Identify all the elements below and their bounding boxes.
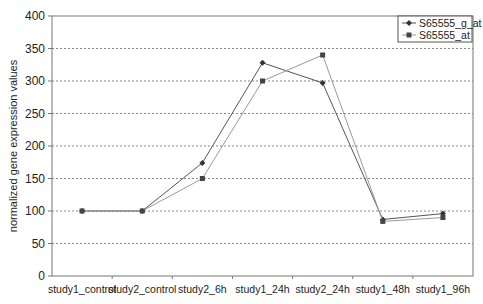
legend-label: S65555_g_at	[419, 17, 482, 29]
square-marker	[440, 215, 445, 220]
diamond-marker	[260, 60, 266, 66]
x-tick-label: study2_24h	[295, 283, 349, 295]
y-axis-label: normalized gene expression values	[7, 59, 19, 232]
y-tick-label: 300	[25, 74, 45, 88]
square-marker	[260, 79, 265, 84]
x-tick-label: study1_24h	[235, 283, 289, 295]
legend-label: S65555_at	[419, 29, 470, 41]
y-tick-label: 150	[25, 172, 45, 186]
y-tick-label: 350	[25, 42, 45, 56]
square-marker	[380, 219, 385, 224]
x-tick-label: study2_control	[108, 283, 176, 295]
square-marker	[140, 209, 145, 214]
x-tick-label: study2_6h	[178, 283, 227, 295]
legend: S65555_g_atS65555_at	[398, 16, 482, 42]
square-marker	[200, 176, 205, 181]
data-series	[79, 53, 446, 224]
y-tick-label: 0	[38, 269, 45, 283]
y-tick-label: 400	[25, 9, 45, 23]
square-marker	[80, 209, 85, 214]
y-tick-label: 250	[25, 107, 45, 121]
square-marker	[407, 33, 412, 38]
x-tick-label: study1_48h	[356, 283, 410, 295]
series-S65555_at	[80, 53, 446, 224]
x-tick-label: study1_96h	[416, 283, 470, 295]
x-tick-label: study1_control	[48, 283, 116, 295]
gridlines	[52, 49, 473, 244]
series-S65555_g_at	[79, 60, 446, 223]
x-axis: study1_controlstudy2_controlstudy2_6hstu…	[48, 276, 470, 295]
series-line	[82, 63, 443, 220]
square-marker	[320, 53, 325, 58]
line-chart: 050100150200250300350400 study1_controls…	[0, 0, 483, 304]
y-tick-label: 50	[32, 237, 46, 251]
y-axis: 050100150200250300350400	[25, 9, 52, 283]
y-tick-label: 200	[25, 139, 45, 153]
y-tick-label: 100	[25, 204, 45, 218]
